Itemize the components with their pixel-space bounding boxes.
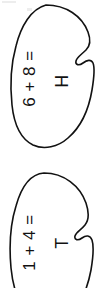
equation-expression: 1 + 4 = <box>21 205 38 281</box>
problem-card-bottom[interactable]: 1 + 4 = T <box>0 170 101 288</box>
equation-layer-top: 6 + 8 = H <box>0 2 101 150</box>
equation-layer-bottom: 1 + 4 = T <box>0 170 101 288</box>
equation-expression: 6 + 8 = <box>21 41 38 117</box>
problem-card-top[interactable]: 6 + 8 = H <box>0 2 101 150</box>
answer-letter: H <box>53 57 71 105</box>
answer-letter: T <box>53 219 71 267</box>
